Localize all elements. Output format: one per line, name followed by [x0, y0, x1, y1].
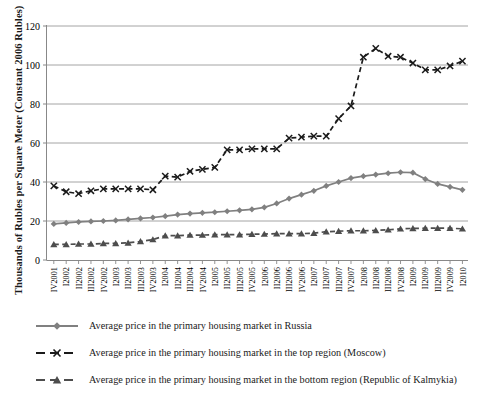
svg-text:100: 100: [25, 60, 40, 71]
svg-text:III2007: III2007: [335, 267, 344, 292]
series-russia: [51, 169, 466, 227]
svg-text:III2002: III2002: [87, 267, 96, 292]
svg-text:IV2007: IV2007: [347, 267, 356, 292]
legend-label-russia: Average price in the primary housing mar…: [80, 320, 312, 331]
y-axis-ticks: 020406080100120: [25, 21, 47, 266]
legend-item-russia: Average price in the primary housing mar…: [34, 312, 484, 339]
svg-text:80: 80: [30, 99, 40, 110]
svg-text:I2003: I2003: [112, 267, 121, 286]
gridlines: [47, 26, 468, 221]
svg-text:40: 40: [30, 177, 40, 188]
legend-item-kalmykia: Average price in the primary housing mar…: [34, 366, 484, 393]
svg-text:II2003: II2003: [124, 267, 133, 289]
plot-area: 020406080100120 IV2001I2002II2002III2002…: [0, 0, 486, 310]
svg-text:III2005: III2005: [236, 267, 245, 292]
svg-text:I2010: I2010: [459, 267, 468, 286]
svg-text:IV2002: IV2002: [100, 267, 109, 292]
svg-text:I2005: I2005: [211, 267, 220, 286]
chart-container: Thousands of Rubles per Square Meter (Co…: [0, 0, 486, 396]
legend-item-moscow: Average price in the primary housing mar…: [34, 339, 484, 366]
svg-text:III2003: III2003: [137, 267, 146, 292]
legend-key-moscow-icon: [34, 346, 80, 360]
svg-text:II2004: II2004: [174, 266, 183, 289]
svg-text:III2006: III2006: [285, 267, 294, 292]
svg-text:III2008: III2008: [384, 267, 393, 292]
svg-text:I2009: I2009: [409, 267, 418, 286]
svg-text:II2005: II2005: [223, 267, 232, 289]
svg-text:I2002: I2002: [62, 267, 71, 286]
svg-text:0: 0: [35, 255, 40, 266]
svg-text:IV2001: IV2001: [50, 267, 59, 292]
svg-text:II2007: II2007: [322, 267, 331, 289]
legend-key-russia-icon: [34, 319, 80, 333]
chart-legend: Average price in the primary housing mar…: [34, 312, 484, 393]
svg-text:III2004: III2004: [186, 266, 195, 292]
svg-text:II2006: II2006: [273, 267, 282, 289]
svg-text:20: 20: [30, 216, 40, 227]
legend-label-kalmykia: Average price in the primary housing mar…: [80, 374, 457, 385]
svg-text:I2008: I2008: [360, 267, 369, 286]
svg-text:I2004: I2004: [161, 266, 170, 286]
svg-text:IV2005: IV2005: [248, 267, 257, 292]
legend-label-moscow: Average price in the primary housing mar…: [80, 347, 386, 358]
svg-text:II2009: II2009: [421, 267, 430, 289]
svg-text:IV2003: IV2003: [149, 267, 158, 292]
svg-text:I2006: I2006: [261, 267, 270, 286]
svg-text:III2009: III2009: [434, 267, 443, 292]
svg-text:IV2008: IV2008: [397, 267, 406, 292]
x-axis-tick-labels: IV2001I2002II2002III2002IV2002I2003II200…: [50, 266, 468, 292]
series-moscow: [51, 45, 466, 196]
svg-text:II2008: II2008: [372, 267, 381, 289]
svg-text:IV2004: IV2004: [199, 266, 208, 292]
svg-text:IV2009: IV2009: [446, 267, 455, 292]
svg-text:60: 60: [30, 138, 40, 149]
svg-text:I2007: I2007: [310, 267, 319, 286]
series-kalmykia: [50, 225, 466, 247]
svg-text:IV2006: IV2006: [298, 267, 307, 292]
svg-text:II2002: II2002: [75, 267, 84, 289]
svg-text:120: 120: [25, 21, 40, 32]
legend-key-kalmykia-icon: [34, 373, 80, 387]
